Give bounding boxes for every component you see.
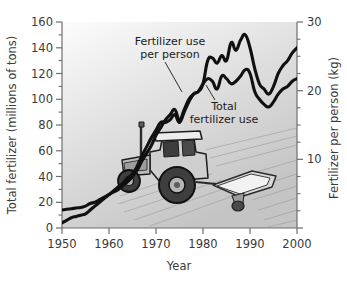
annotation-per-person-line2: per person: [140, 48, 200, 61]
xtick-label-1980: 1980: [188, 237, 217, 251]
ytick-right-label-30: 30: [307, 15, 322, 29]
fertilizer-use-chart-figure: 0 20 40 60 80 100 120 140 160 Total fert…: [0, 0, 347, 283]
x-axis-title: Year: [166, 259, 192, 273]
ytick-label-100: 100: [31, 92, 53, 106]
ytick-label-0: 0: [46, 221, 53, 235]
ytick-label-80: 80: [38, 118, 53, 132]
y-axis-title-right: Fertilizer per person (kg): [327, 57, 341, 199]
ytick-label-20: 20: [38, 195, 53, 209]
ytick-right-label-20: 20: [307, 84, 322, 98]
y-axis-title-left: Total fertilizer (millions of tons): [5, 36, 19, 215]
xtick-label-1990: 1990: [235, 237, 264, 251]
xtick-label-1950: 1950: [47, 237, 76, 251]
xtick-label-1970: 1970: [141, 237, 170, 251]
ytick-label-120: 120: [31, 67, 53, 81]
ytick-label-60: 60: [38, 144, 53, 158]
xtick-label-1960: 1960: [94, 237, 123, 251]
annotation-total-line1: Total: [210, 100, 237, 113]
chart-svg: 0 20 40 60 80 100 120 140 160 Total fert…: [0, 0, 347, 283]
ytick-label-140: 140: [31, 41, 53, 55]
annotation-total-line2: fertilizer use: [190, 113, 259, 126]
ytick-label-160: 160: [31, 15, 53, 29]
ytick-right-label-10: 10: [307, 152, 322, 166]
xtick-label-2000: 2000: [282, 237, 311, 251]
annotation-per-person-line1: Fertilizer use: [135, 35, 206, 48]
ytick-label-40: 40: [38, 170, 53, 184]
